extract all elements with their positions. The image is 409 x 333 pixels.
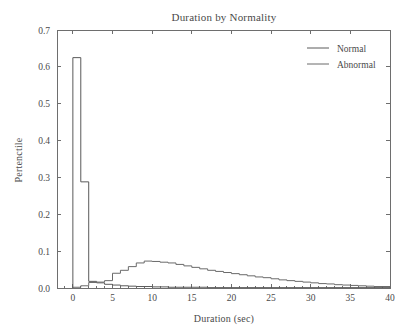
y-tick-label: 0.0 [38,284,50,294]
chart-canvas: Duration by Normality 0510152025303540 0… [0,0,409,333]
y-tick-label: 0.1 [38,247,50,257]
y-tick-label: 0.3 [38,173,50,183]
y-tick-label: 0.5 [38,99,50,109]
chart-title: Duration by Normality [171,11,276,23]
x-tick-label: 10 [147,293,157,303]
x-tick-label: 25 [266,293,276,303]
x-tick-label: 0 [70,293,75,303]
legend-label-normal: Normal [337,44,366,54]
chart-figure: Duration by Normality 0510152025303540 0… [0,0,409,333]
y-tick-label: 0.4 [38,136,50,146]
x-tick-label: 30 [306,293,316,303]
x-tick-label: 35 [346,293,356,303]
x-tick-label: 5 [110,293,115,303]
x-tick-label: 20 [227,293,237,303]
y-tick-label: 0.7 [38,26,50,36]
legend-label-abnormal: Abnormal [337,60,376,70]
y-axis-label: Pertenctile [13,137,24,182]
y-tick-label: 0.2 [38,210,50,220]
x-tick-label: 15 [187,293,197,303]
x-tick-label: 40 [385,293,395,303]
x-axis-label: Duration (sec) [194,313,254,325]
y-tick-label: 0.6 [38,62,50,72]
